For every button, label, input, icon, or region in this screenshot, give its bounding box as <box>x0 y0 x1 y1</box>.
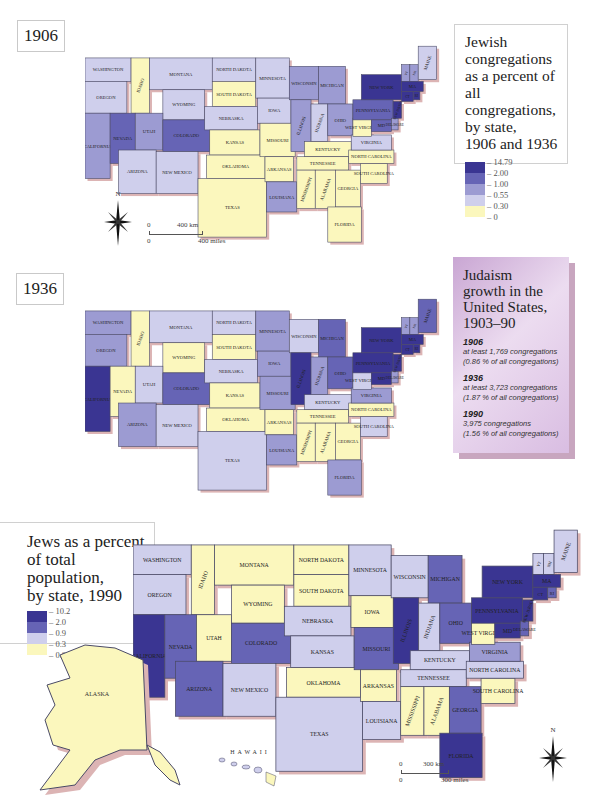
state-north-carolina: NORTH CAROLINA <box>349 150 394 163</box>
state-label: TENNESSEE <box>417 675 450 681</box>
state-ohio: OHIO <box>440 603 472 643</box>
legend-scale: – 14.79 – 2.00 – 1.00 – 0.55 – 0.30 – 0 <box>465 162 567 228</box>
state-montana: MONTANA <box>149 311 212 343</box>
state-pennsylvania: PENNSYLVANIA <box>353 353 393 373</box>
state-ct: CT <box>533 587 548 600</box>
state-label: FLORIDA <box>335 475 356 480</box>
state-label: SOUTH DAKOTA <box>216 92 252 97</box>
state-alabama: ALABAMA <box>315 170 335 209</box>
state-montana: MONTANA <box>149 58 212 90</box>
state-label: NEW MEXICO <box>162 170 192 175</box>
state-california: CALIFORNIA <box>85 113 112 178</box>
state-indiana: INDIANA <box>311 357 328 395</box>
state-ma: MA <box>401 334 423 344</box>
legend-row: – 14.79 <box>465 162 567 173</box>
state-colorado: COLORADO <box>231 623 290 663</box>
state-label: UTAH <box>206 635 222 641</box>
state-label: PENNSYLVANIA <box>356 108 391 113</box>
state-label: IOWA <box>365 609 381 615</box>
state-missouri: MISSOURI <box>354 627 398 669</box>
state-kentucky: KENTUCKY <box>304 395 351 410</box>
state-label: MA <box>542 578 552 584</box>
state-label: GEORGIA <box>452 707 479 713</box>
info-entry-count: at least 3,723 congregations <box>463 383 561 393</box>
state-label: DELAWARE <box>386 376 404 380</box>
state-label: MINNESOTA <box>259 329 286 334</box>
state-label: FLORIDA <box>335 222 356 227</box>
legend-tick-label: – 0 <box>487 213 498 221</box>
state-vt: VT <box>533 553 544 574</box>
legend-row: – 0.55 <box>465 195 567 206</box>
state-label: MA <box>409 337 417 342</box>
state-label: KANSAS <box>311 649 334 655</box>
state-label: NEW YORK <box>492 579 524 585</box>
state-nh: NH <box>543 553 554 574</box>
state-utah: UTAH <box>197 615 232 662</box>
state-florida: FLORIDA <box>328 460 361 495</box>
state-label: VIRGINIA <box>482 649 509 655</box>
state-mississippi: MISSISSIPPI <box>297 423 315 462</box>
state-nebraska: NEBRASKA <box>284 606 351 636</box>
state-label: SOUTH DAKOTA <box>216 345 252 350</box>
state-virginia: VIRGINIA <box>351 135 391 150</box>
info-entry-percent: (1.56 % of all congregations) <box>463 429 561 439</box>
state-label: NEW YORK <box>369 338 394 343</box>
state-label: CT <box>538 592 544 597</box>
state-label: OHIO <box>335 371 347 376</box>
legend-row: – 0.30 <box>465 206 567 217</box>
state-label: MD <box>503 628 512 634</box>
state-label: ARKANSAS <box>267 420 292 425</box>
state-minnesota: MINNESOTA <box>256 311 289 351</box>
state-label: RI <box>415 94 418 98</box>
state-label: WYOMING <box>172 102 196 107</box>
info-entry-percent: (0.86 % of all congregations) <box>463 357 561 367</box>
state-label: OREGON <box>96 95 116 100</box>
state-florida: FLORIDA <box>328 207 361 242</box>
state-new-york: NEW YORK <box>361 75 401 100</box>
state-south-dakota: SOUTH DAKOTA <box>212 334 256 359</box>
state-oregon: OREGON <box>85 334 127 366</box>
state-label: RI <box>415 347 418 351</box>
legend-swatch <box>465 184 485 195</box>
state-label: PENNSYLVANIA <box>475 608 519 614</box>
legend-title: Jewishcongregationsas a percent of allco… <box>465 33 567 152</box>
scale-miles-label: 400 miles <box>198 237 225 245</box>
state-label: NEVADA <box>113 136 132 141</box>
scale-zero-km: 0 <box>399 760 403 768</box>
state-label: NEBRASKA <box>219 369 244 374</box>
state-ct: CT <box>401 91 413 101</box>
state-alabama: ALABAMA <box>315 423 335 462</box>
state-nebraska: NEBRASKA <box>205 359 258 382</box>
state-wisconsin: WISCONSIN <box>289 66 318 99</box>
state-label: ARIZONA <box>186 686 213 692</box>
state-kentucky: KENTUCKY <box>304 142 351 157</box>
state-virginia: VIRGINIA <box>469 642 520 661</box>
state-label: NEW YORK <box>369 85 394 90</box>
state-michigan: MICHIGAN <box>319 66 346 104</box>
compass-north-label: N <box>550 726 555 734</box>
state-new-mexico: NEW MEXICO <box>223 663 276 716</box>
state-colorado: COLORADO <box>163 373 210 405</box>
state-minnesota: MINNESOTA <box>349 545 391 596</box>
state-utah: UTAH <box>135 113 163 150</box>
state-louisiana: LOUISIANA <box>267 182 297 212</box>
state-ri: RI <box>548 587 556 598</box>
state-label: CALIFORNIA <box>85 144 112 149</box>
state-label: VIRGINIA <box>361 393 383 398</box>
hawaii-inset: HAWAII <box>210 740 290 790</box>
state-label: UTAH <box>143 382 156 387</box>
state-label: MICHIGAN <box>320 83 344 88</box>
state-kentucky: KENTUCKY <box>410 651 469 670</box>
info-entry-count: 3,975 congregations <box>463 419 561 429</box>
legend-tick-label: – 14.79 <box>487 158 513 166</box>
state-label: CT <box>405 95 409 99</box>
legend-title-line: congregations <box>465 50 567 67</box>
state-label: MICHIGAN <box>430 576 460 582</box>
state-arkansas: ARKANSAS <box>265 157 293 182</box>
legend-row: – 1.00 <box>465 184 567 195</box>
state-ri: RI <box>413 91 420 99</box>
legend-swatch <box>27 622 47 633</box>
state-label: KANSAS <box>226 140 245 145</box>
legend-tick-label: – 0.55 <box>487 191 508 199</box>
legend-swatch <box>27 611 47 622</box>
